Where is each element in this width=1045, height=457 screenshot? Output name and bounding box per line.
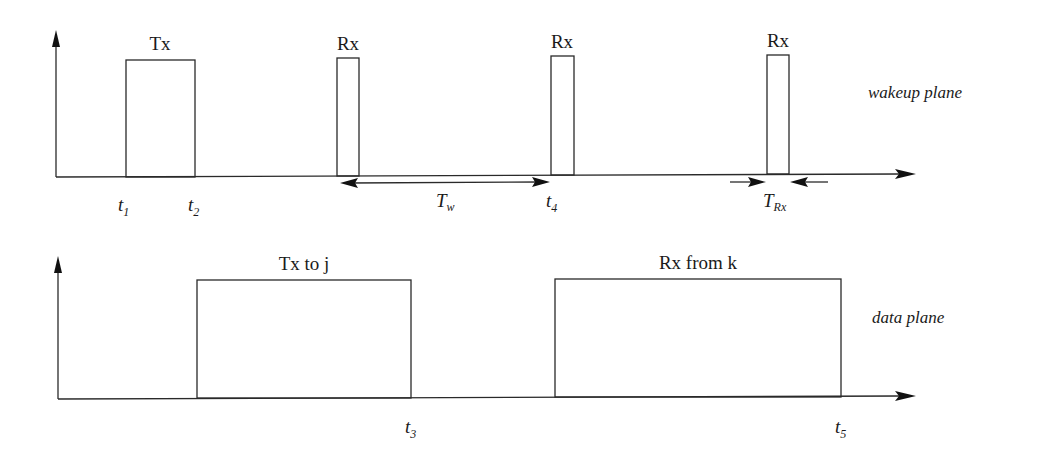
interval-label-tw: Tw [436,190,455,214]
wakeup-pulse-rx-1: Rx [337,33,360,176]
rx-pulse-label-3: Rx [767,30,790,51]
timing-diagram: Tx Rx Rx Rx t1 [0,0,1045,457]
wakeup-plane-label: wakeup plane [868,83,962,102]
data-plane-label: data plane [872,308,945,327]
time-label-t1: t1 [118,194,129,219]
wakeup-y-axis-arrowhead-icon [52,30,60,47]
data-pulse-tx-to-j: Tx to j [197,253,411,398]
wakeup-pulse-rx-2: Rx [551,31,574,175]
tx-pulse-box [126,60,195,177]
time-label-t2: t2 [188,194,199,219]
trx-interval-arrows [730,177,828,187]
wakeup-pulse-tx: Tx [126,33,195,177]
tx-pulse-label: Tx [149,33,171,54]
time-label-t3: t3 [405,416,416,441]
tx-to-j-box [197,280,411,398]
data-pulse-rx-from-k: Rx from k [555,252,841,397]
rx-from-k-label: Rx from k [659,252,738,273]
wakeup-plane: Tx Rx Rx Rx t1 [52,30,962,219]
time-label-t5: t5 [835,416,846,441]
data-y-axis-arrowhead-icon [54,256,62,273]
data-plane: Tx to j Rx from k t3 t5 data plane [54,252,945,441]
rx-pulse-box-1 [337,58,359,176]
rx-pulse-label-1: Rx [337,33,360,54]
tw-interval-arrow [340,177,550,188]
rx-pulse-box-2 [551,56,574,175]
interval-label-trx: TRx [763,190,787,214]
rx-from-k-box [555,279,841,397]
wakeup-pulse-rx-3: Rx [767,30,790,174]
tx-to-j-label: Tx to j [279,253,330,274]
rx-pulse-label-2: Rx [551,31,574,52]
time-label-t4: t4 [546,190,557,215]
rx-pulse-box-3 [767,55,789,174]
